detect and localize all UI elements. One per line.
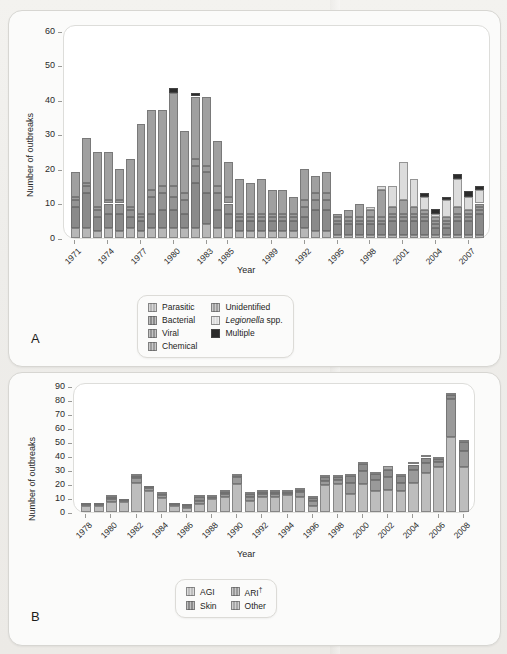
bar-segment (355, 204, 364, 218)
bar-segment (220, 490, 230, 492)
legend-label: Multiple (225, 328, 254, 338)
bar-segment (370, 480, 380, 491)
bar-segment (377, 217, 386, 220)
legend-swatch-icon (231, 587, 240, 596)
bar (345, 474, 355, 512)
x-tick-label: 1998 (319, 520, 346, 547)
bar-segment (202, 97, 211, 166)
bar-segment (358, 462, 368, 464)
bar-segment (453, 174, 462, 179)
x-tick-label: 1977 (122, 246, 149, 273)
bar-segment (289, 214, 298, 217)
bar-segment (131, 476, 141, 479)
panel-b-letter: B (31, 609, 40, 624)
bar-segment (399, 235, 408, 238)
bar-segment (410, 235, 419, 238)
bar-segment (126, 210, 135, 217)
bar-segment (94, 506, 104, 512)
bar-segment (257, 494, 267, 497)
bar-segment (388, 207, 397, 214)
x-tick-label: 1980 (93, 520, 120, 547)
bar-segment (344, 224, 353, 234)
bar-segment (322, 200, 331, 210)
bar-segment (344, 210, 353, 217)
bar-segment (191, 97, 200, 159)
bar (475, 186, 484, 238)
y-tick-label: 0 (29, 233, 55, 243)
x-tick-label: 1998 (352, 246, 379, 273)
bar-segment (235, 214, 244, 217)
bar-segment (180, 200, 189, 214)
bar-segment (464, 210, 473, 213)
bar-segment (399, 200, 408, 214)
bar-segment (257, 490, 267, 492)
bar-segment (333, 217, 342, 220)
bar-segment (268, 190, 277, 214)
x-tick-mark (186, 514, 187, 518)
bar-segment (191, 93, 200, 96)
bar-segment (182, 504, 192, 506)
bar-segment (194, 504, 204, 512)
x-tick-mark (337, 240, 338, 244)
bar (453, 174, 462, 238)
bar-segment (320, 475, 330, 477)
y-tick-label: 70 (39, 409, 65, 419)
bar-segment (320, 477, 330, 481)
bar (224, 162, 233, 238)
x-tick-label: 2004 (395, 520, 422, 547)
bar-segment (475, 210, 484, 213)
x-tick-label: 1982 (118, 520, 145, 547)
bar-segment (333, 214, 342, 217)
legend-swatch-icon (186, 587, 195, 596)
bar (81, 504, 91, 512)
panel-b-y-axis-label: Number of outbreaks (27, 437, 37, 521)
bar-segment (431, 217, 440, 220)
bar-segment (295, 497, 305, 512)
bar-segment (344, 221, 353, 224)
bar-segment (366, 207, 375, 210)
bar-segment (213, 228, 222, 238)
x-tick-mark (136, 514, 137, 518)
bar (232, 474, 242, 512)
bar-segment (106, 497, 116, 500)
legend-item: Other (231, 601, 266, 611)
bar-segment (82, 228, 91, 238)
y-tick-label: 0 (39, 507, 65, 517)
bar-segment (464, 197, 473, 211)
panel-a-letter: A (31, 331, 40, 346)
bar-segment (295, 492, 305, 496)
bar-segment (453, 221, 462, 235)
y-tick-mark (68, 443, 72, 444)
bar-segment (182, 508, 192, 512)
bar (295, 488, 305, 512)
bar-segment (268, 217, 277, 220)
bar (257, 179, 266, 238)
bar-segment (224, 228, 233, 238)
bar-segment (245, 501, 255, 512)
bar-segment (93, 210, 102, 217)
bar-segment (388, 221, 397, 235)
bar (410, 179, 419, 238)
y-tick-label: 50 (29, 60, 55, 70)
bar-segment (388, 214, 397, 217)
bar-segment (104, 152, 113, 200)
bar-segment (464, 217, 473, 220)
bar-segment (71, 228, 80, 238)
legend-swatch-icon (186, 601, 195, 610)
bar-segment (106, 495, 116, 497)
bar-segment (383, 466, 393, 470)
bar (464, 191, 473, 238)
bar-segment (431, 214, 440, 217)
y-tick-label: 30 (39, 465, 65, 475)
bar-segment (224, 162, 233, 197)
bar (322, 172, 331, 238)
bar-segment (475, 207, 484, 210)
bar-segment (93, 217, 102, 231)
y-tick-label: 20 (39, 479, 65, 489)
bar (377, 186, 386, 238)
bar-segment (115, 214, 124, 231)
y-tick-label: 50 (39, 437, 65, 447)
x-tick-mark (387, 514, 388, 518)
bar-segment (377, 186, 386, 189)
y-tick-label: 80 (39, 395, 65, 405)
